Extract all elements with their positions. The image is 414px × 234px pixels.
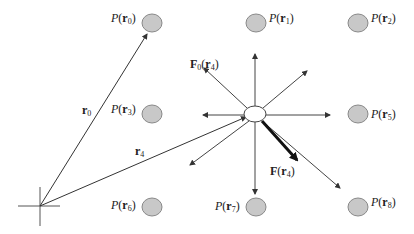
- label-P-r3: P(r3): [110, 102, 136, 117]
- label-r4: r4: [135, 144, 144, 159]
- label-P-r2: P(r2): [370, 11, 396, 26]
- position-vector-r0: [40, 34, 147, 206]
- grid-point-2: [348, 14, 368, 32]
- grid-point-8: [348, 198, 368, 216]
- label-P-r7: P(r7): [214, 199, 240, 214]
- label-r0: r0: [82, 103, 91, 118]
- center-particle: [244, 106, 266, 122]
- grid-point-3: [142, 105, 162, 123]
- label-F-r4: F(r4): [270, 164, 295, 179]
- grid-point-6: [142, 198, 162, 216]
- origin-crosshair: [18, 187, 60, 226]
- diagram-canvas: P(r0) P(r1) P(r2) P(r3) P(r5) P(r6) P(r7…: [0, 0, 414, 234]
- grid-point-7: [246, 198, 266, 216]
- label-P-r1: P(r1): [268, 11, 294, 26]
- grid-point-0: [142, 14, 162, 32]
- grid-point-1: [246, 14, 266, 32]
- label-P-r0: P(r0): [110, 11, 136, 26]
- label-F0-r4: F0(r4): [190, 57, 219, 72]
- resultant-force-arrow: [262, 121, 297, 160]
- label-P-r5: P(r5): [370, 107, 396, 122]
- grid-point-5: [348, 105, 368, 123]
- position-vector-r4: [40, 117, 246, 206]
- label-P-r6: P(r6): [110, 198, 136, 213]
- force-arrow-up-left: [204, 68, 247, 108]
- label-P-r8: P(r8): [370, 195, 396, 210]
- force-arrow-down-left: [190, 121, 249, 165]
- diagram-svg: P(r0) P(r1) P(r2) P(r3) P(r5) P(r6) P(r7…: [0, 0, 414, 234]
- force-arrow-up-right: [263, 71, 307, 108]
